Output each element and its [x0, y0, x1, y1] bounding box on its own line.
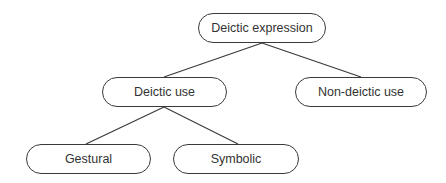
node-non-deictic-use: Non-deictic use	[295, 77, 427, 107]
edge-root-nondeictic	[262, 43, 361, 77]
node-deictic-expression: Deictic expression	[198, 13, 326, 43]
edge-deictic-gestural	[86, 107, 164, 144]
node-deictic-use: Deictic use	[102, 77, 227, 107]
edge-root-deictic	[164, 43, 262, 77]
node-gestural: Gestural	[26, 144, 151, 174]
edge-deictic-symbolic	[164, 107, 238, 144]
node-symbolic: Symbolic	[173, 144, 299, 174]
